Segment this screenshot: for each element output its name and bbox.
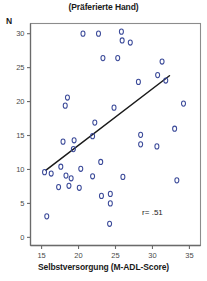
data-point xyxy=(99,159,103,164)
data-point xyxy=(63,103,67,108)
regression-line-segment xyxy=(46,76,169,170)
data-point xyxy=(59,164,63,169)
data-point xyxy=(155,144,159,149)
data-point xyxy=(108,221,112,226)
data-point xyxy=(69,176,73,181)
data-point xyxy=(173,126,177,131)
axis-ticks xyxy=(27,34,189,249)
data-points xyxy=(43,29,186,226)
data-point xyxy=(97,31,101,36)
y-tick-label: 10 xyxy=(16,165,24,174)
data-point xyxy=(43,170,47,175)
data-point xyxy=(156,72,160,77)
x-tick-label: 20 xyxy=(74,251,82,260)
data-point xyxy=(175,178,179,183)
data-point xyxy=(112,105,116,110)
data-point xyxy=(79,166,83,171)
data-point xyxy=(120,38,124,43)
data-point xyxy=(61,139,65,144)
y-tick-label: 5 xyxy=(20,199,24,208)
x-tick-label: 35 xyxy=(185,251,193,260)
data-point xyxy=(72,138,76,143)
axis-tick-labels: 0510152025301520253035 xyxy=(16,29,193,259)
data-point xyxy=(108,191,112,196)
y-tick-label: 0 xyxy=(20,233,24,242)
regression-line xyxy=(46,76,169,170)
data-point xyxy=(91,174,95,179)
data-point xyxy=(139,132,143,137)
x-tick-label: 15 xyxy=(37,251,45,260)
data-point xyxy=(45,214,49,219)
x-tick-label: 30 xyxy=(148,251,156,260)
data-point xyxy=(57,185,61,190)
data-point xyxy=(160,59,164,64)
data-point xyxy=(67,183,71,188)
data-point xyxy=(182,101,186,106)
data-point xyxy=(128,40,132,45)
correlation-label: r= .51 xyxy=(142,208,163,217)
data-point xyxy=(116,56,120,61)
data-point xyxy=(119,29,123,34)
y-tick-label: 25 xyxy=(16,63,24,72)
data-point xyxy=(121,174,125,179)
data-point xyxy=(64,173,68,178)
y-tick-label: 30 xyxy=(16,29,24,38)
scatter-plot: 0510152025301520253035 r= .51 xyxy=(0,0,207,281)
data-point xyxy=(101,56,105,61)
y-tick-label: 15 xyxy=(16,131,24,140)
data-point xyxy=(77,185,81,190)
data-point xyxy=(108,201,112,206)
data-point xyxy=(65,95,69,100)
correlation-annotation: r= .51 xyxy=(142,208,163,217)
chart-container: (Präferierte Hand) N Selbstversorgung (M… xyxy=(0,0,207,281)
y-tick-label: 20 xyxy=(16,97,24,106)
data-point xyxy=(99,193,103,198)
x-tick-label: 25 xyxy=(111,251,119,260)
data-point xyxy=(81,31,85,36)
data-point xyxy=(139,142,143,147)
data-point xyxy=(93,120,97,125)
data-point xyxy=(136,79,140,84)
data-point xyxy=(49,171,53,176)
